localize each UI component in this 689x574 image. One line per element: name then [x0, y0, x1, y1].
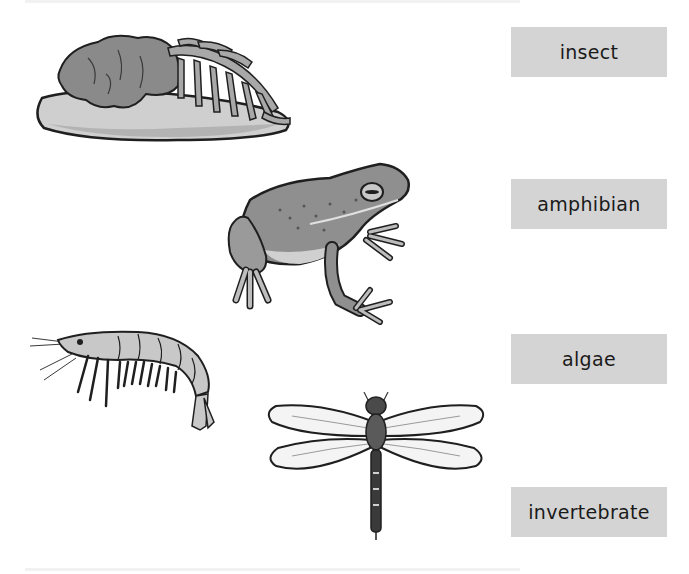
label-text-invertebrate: invertebrate [528, 501, 649, 523]
frog-image[interactable] [220, 160, 415, 325]
dragonfly-icon [262, 392, 490, 542]
label-text-amphibian: amphibian [537, 193, 640, 215]
dragonfly-image[interactable] [262, 392, 490, 542]
label-invertebrate[interactable]: invertebrate [511, 487, 667, 537]
bottom-divider [25, 568, 520, 571]
label-amphibian[interactable]: amphibian [511, 179, 667, 229]
algae-on-rock-image[interactable] [28, 28, 298, 146]
shrimp-icon [28, 326, 218, 436]
top-divider [25, 0, 520, 3]
label-text-algae: algae [562, 348, 616, 370]
label-algae[interactable]: algae [511, 334, 667, 384]
label-text-insect: insect [560, 41, 619, 63]
label-insect[interactable]: insect [511, 27, 667, 77]
shrimp-image[interactable] [28, 326, 218, 436]
frog-icon [220, 160, 415, 325]
algae-rock-icon [28, 28, 298, 146]
